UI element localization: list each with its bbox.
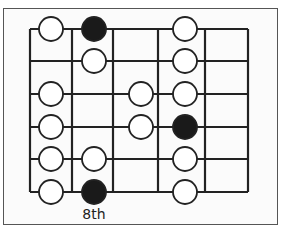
fret-lines [30, 29, 248, 192]
scale-note-marker [173, 17, 197, 41]
root-note-marker [82, 180, 106, 204]
fretboard [0, 0, 283, 232]
scale-note-marker [39, 82, 63, 106]
root-note-marker [82, 17, 106, 41]
scale-note-marker [129, 82, 153, 106]
fret-position-label: 8th [82, 206, 105, 222]
scale-note-marker [129, 115, 153, 139]
scale-note-marker [39, 17, 63, 41]
scale-note-marker [173, 147, 197, 171]
scale-notes [39, 17, 197, 204]
scale-note-marker [39, 147, 63, 171]
scale-note-marker [173, 180, 197, 204]
scale-note-marker [82, 147, 106, 171]
scale-note-marker [173, 49, 197, 73]
scale-note-marker [39, 180, 63, 204]
root-note-marker [173, 115, 197, 139]
string-lines [30, 29, 248, 192]
scale-note-marker [82, 49, 106, 73]
scale-note-marker [173, 82, 197, 106]
scale-note-marker [39, 115, 63, 139]
